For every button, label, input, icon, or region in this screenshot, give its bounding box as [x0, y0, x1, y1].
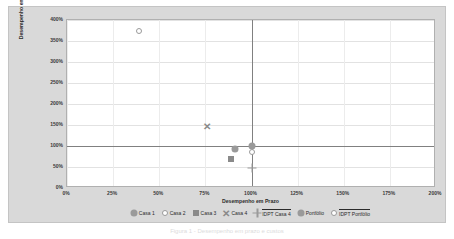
x-axis-title: Desempenho em Prazo: [66, 198, 435, 204]
gridline-vertical: [205, 20, 206, 186]
reference-line-vertical: [252, 20, 253, 186]
legend-marker-icon: [254, 210, 260, 216]
legend-label: Portfólio: [306, 210, 324, 216]
gridline-vertical: [67, 20, 68, 186]
x-axis-tick-label: 125%: [290, 190, 303, 196]
legend-marker-icon: ✕: [223, 210, 229, 216]
legend-marker-icon: [193, 210, 199, 216]
legend-label: IDPT Portfólio: [339, 209, 370, 217]
gridline-vertical: [113, 20, 114, 186]
legend-marker-icon: [131, 210, 137, 216]
x-axis-tick-label: 200%: [429, 190, 442, 196]
y-axis-tick-label: 250%: [50, 79, 63, 85]
data-point: [247, 163, 256, 172]
x-axis-tick-labels: 0%25%50%75%100%125%150%175%200%: [66, 190, 435, 198]
x-axis-tick-label: 25%: [107, 190, 117, 196]
gridline-horizontal: [67, 125, 434, 126]
chart-container: Desempenho em Custos 0%50%100%150%200%25…: [8, 6, 446, 223]
x-axis-tick-label: 0%: [62, 190, 69, 196]
legend-item[interactable]: Casa 2: [162, 210, 186, 216]
data-point: [231, 145, 238, 152]
legend-item[interactable]: IDPT Portfólio: [331, 209, 370, 217]
legend-label: Casa 1: [139, 210, 155, 216]
data-point: ✕: [203, 122, 212, 131]
y-axis-tick-label: 400%: [50, 16, 63, 22]
figure-caption: Figura 1 - Desempenho em prazo e custos: [0, 228, 454, 234]
y-axis-tick-label: 50%: [53, 163, 63, 169]
legend-label: Casa 2: [170, 210, 186, 216]
legend-item[interactable]: Portfólio: [298, 210, 324, 216]
legend-item[interactable]: IDPT Casa 4: [254, 209, 291, 217]
gridline-horizontal: [67, 83, 434, 84]
legend-item[interactable]: ✕Casa 4: [223, 210, 247, 216]
x-axis-tick-label: 75%: [199, 190, 209, 196]
x-axis-tick-label: 100%: [244, 190, 257, 196]
y-axis-tick-labels: 0%50%100%150%200%250%300%350%400%: [37, 19, 63, 187]
x-axis-tick-label: 150%: [336, 190, 349, 196]
gridline-horizontal: [67, 41, 434, 42]
legend-item[interactable]: Casa 1: [131, 210, 155, 216]
y-axis-tick-label: 300%: [50, 58, 63, 64]
gridline-vertical: [344, 20, 345, 186]
gridline-horizontal: [67, 62, 434, 63]
gridline-vertical: [159, 20, 160, 186]
data-point: [228, 156, 234, 162]
legend-item[interactable]: Casa 3: [193, 210, 217, 216]
legend-marker-icon: [298, 210, 304, 216]
legend-label: IDPT Casa 4: [262, 209, 291, 217]
y-axis-tick-label: 350%: [50, 37, 63, 43]
gridline-vertical: [390, 20, 391, 186]
legend-label: Casa 4: [231, 210, 247, 216]
legend-marker-icon: [162, 210, 168, 216]
plot-area: ✕: [66, 19, 435, 187]
y-axis-tick-label: 100%: [50, 142, 63, 148]
gridline-horizontal: [67, 104, 434, 105]
y-axis-title: Desempenho em Custos: [18, 0, 24, 57]
legend-label: Casa 3: [201, 210, 217, 216]
y-axis-tick-label: 200%: [50, 100, 63, 106]
data-point: [249, 149, 255, 155]
y-axis-tick-label: 150%: [50, 121, 63, 127]
gridline-horizontal: [67, 20, 434, 21]
legend-marker-icon: [331, 210, 337, 216]
chart-legend: Casa 1Casa 2Casa 3✕Casa 4IDPT Casa 4Port…: [66, 209, 435, 217]
x-axis-tick-label: 50%: [153, 190, 163, 196]
x-axis-tick-label: 175%: [382, 190, 395, 196]
gridline-vertical: [298, 20, 299, 186]
data-point: [136, 28, 142, 34]
